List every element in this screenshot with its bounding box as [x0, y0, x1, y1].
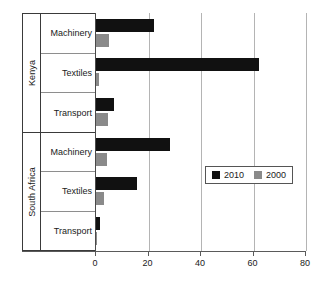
- x-tick-label-60: 60: [247, 258, 257, 268]
- bar-spacer: [96, 230, 305, 232]
- legend-label-2000: 2000: [266, 170, 286, 180]
- x-tick-20: [148, 251, 149, 256]
- category-label-table: Kenya Machinery Textiles Transport South…: [22, 13, 95, 251]
- bar-spacer: [96, 111, 305, 113]
- bar-group-kenya: [96, 13, 305, 132]
- x-tick-label-20: 20: [142, 258, 152, 268]
- chart-legend: 2010 2000: [205, 166, 293, 184]
- bar-south-africa-transport-2000: [96, 232, 97, 245]
- group-label-kenya: Kenya: [27, 60, 37, 86]
- bar-spacer: [96, 71, 305, 73]
- x-axis-line: [22, 251, 305, 252]
- bar-rows: [96, 13, 305, 251]
- bar-south-africa-machinery-2010: [96, 138, 170, 151]
- x-tick-0: [95, 251, 96, 256]
- group-label-cell-kenya: Kenya: [23, 14, 40, 132]
- legend-label-2010: 2010: [224, 170, 244, 180]
- category-cells-south-africa: Machinery Textiles Transport: [40, 133, 95, 250]
- group-block-south-africa: South Africa Machinery Textiles Transpor…: [23, 132, 95, 250]
- group-label-south-africa: South Africa: [27, 167, 37, 217]
- category-cells-kenya: Machinery Textiles Transport: [40, 14, 95, 132]
- bar-group-south-africa: [96, 132, 305, 251]
- category-label-south-africa-textiles: Textiles: [41, 171, 95, 210]
- bar-kenya-transport-2000: [96, 113, 108, 126]
- legend-swatch-2000: [254, 171, 262, 179]
- x-tick-label-40: 40: [195, 258, 205, 268]
- category-label-south-africa-machinery: Machinery: [41, 133, 95, 171]
- gridline-80: [306, 13, 307, 251]
- x-tick-40: [200, 251, 201, 256]
- grouped-bar-chart: Kenya Machinery Textiles Transport South…: [0, 0, 325, 287]
- bar-kenya-textiles-2010: [96, 58, 259, 71]
- legend-item-2010: 2010: [212, 170, 244, 180]
- bar-south-africa-textiles-2000: [96, 192, 104, 205]
- category-label-south-africa-transport: Transport: [41, 211, 95, 250]
- group-label-cell-south-africa: South Africa: [23, 133, 40, 250]
- bar-kenya-transport-2010: [96, 98, 114, 111]
- x-tick-label-0: 0: [92, 258, 97, 268]
- x-tick-60: [253, 251, 254, 256]
- category-label-kenya-textiles: Textiles: [41, 53, 95, 93]
- bar-south-africa-transport-2010: [96, 217, 100, 230]
- bar-row-kenya-machinery: [96, 13, 305, 53]
- bar-south-africa-textiles-2010: [96, 177, 137, 190]
- bar-row-kenya-transport: [96, 92, 305, 132]
- legend-item-2000: 2000: [254, 170, 286, 180]
- bar-kenya-machinery-2010: [96, 19, 154, 32]
- bar-kenya-machinery-2000: [96, 34, 109, 47]
- x-tick-label-80: 80: [300, 258, 310, 268]
- bar-row-kenya-textiles: [96, 53, 305, 93]
- bar-spacer: [96, 32, 305, 34]
- plot-area: [95, 13, 305, 251]
- bar-south-africa-machinery-2000: [96, 153, 107, 166]
- category-label-kenya-machinery: Machinery: [41, 14, 95, 53]
- category-label-kenya-transport: Transport: [41, 92, 95, 132]
- x-tick-80: [305, 251, 306, 256]
- legend-swatch-2010: [212, 171, 220, 179]
- bar-kenya-textiles-2000: [96, 73, 99, 86]
- bar-row-south-africa-transport: [96, 211, 305, 251]
- bar-spacer: [96, 151, 305, 153]
- group-block-kenya: Kenya Machinery Textiles Transport: [23, 14, 95, 132]
- bar-spacer: [96, 190, 305, 192]
